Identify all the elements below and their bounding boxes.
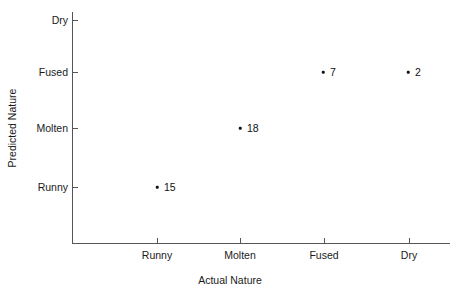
data-point-runny-runny (156, 186, 159, 189)
scatter-chart: Dry Fused Molten Runny Runny Molten Fuse… (0, 0, 460, 294)
y-tick-label-dry: Dry (52, 15, 68, 26)
x-tick-label-runny: Runny (142, 250, 172, 261)
data-point-molten-molten (239, 127, 242, 130)
y-tick-label-runny: Runny (38, 182, 68, 193)
x-tick-runny (157, 238, 158, 243)
x-axis-title: Actual Nature (0, 274, 460, 286)
x-axis-line (72, 243, 450, 244)
y-tick-label-molten: Molten (36, 123, 68, 134)
x-tick-molten (240, 238, 241, 243)
data-point-label-7: 7 (330, 67, 336, 78)
x-tick-dry (409, 238, 410, 243)
data-point-label-2: 2 (415, 67, 421, 78)
x-tick-fused (324, 238, 325, 243)
x-tick-label-molten: Molten (224, 250, 256, 261)
x-tick-label-fused: Fused (309, 250, 338, 261)
y-tick-dry (73, 20, 78, 21)
y-axis-title: Predicted Nature (6, 53, 18, 203)
data-point-label-18: 18 (247, 123, 259, 134)
x-tick-label-dry: Dry (401, 250, 417, 261)
y-tick-label-fused: Fused (39, 67, 68, 78)
data-point-fused-fused (322, 71, 325, 74)
y-tick-runny (73, 187, 78, 188)
data-point-dry-fused (407, 71, 410, 74)
y-tick-molten (73, 128, 78, 129)
y-tick-fused (73, 72, 78, 73)
data-point-label-15: 15 (164, 182, 176, 193)
